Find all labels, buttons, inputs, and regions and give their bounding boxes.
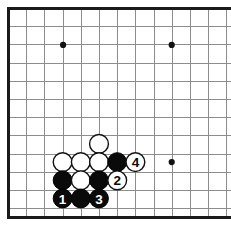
white-stone-d[interactable] (90, 153, 109, 172)
black-stone-disc (108, 153, 127, 172)
stones-group: 4213 (53, 135, 145, 208)
move-3-black[interactable]: 3 (90, 189, 109, 208)
white-stone-disc (53, 153, 72, 172)
stone-move-number: 1 (59, 192, 67, 207)
move-4-white[interactable]: 4 (126, 153, 145, 172)
star-point-top-left (60, 42, 66, 48)
white-stone-disc (71, 171, 90, 190)
white-stone-disc (90, 153, 109, 172)
white-stone-g[interactable] (71, 171, 90, 190)
white-stone-a[interactable] (90, 135, 109, 154)
black-stone-f[interactable] (53, 171, 72, 190)
move-2-white[interactable]: 2 (108, 171, 127, 190)
stone-move-number: 3 (95, 192, 103, 207)
stone-move-number: 4 (132, 155, 140, 170)
white-stone-disc (90, 135, 109, 154)
black-stone-disc (90, 171, 109, 190)
white-stone-disc (71, 153, 90, 172)
white-stone-c[interactable] (71, 153, 90, 172)
move-1-black[interactable]: 1 (53, 189, 72, 208)
black-stone-disc (71, 189, 90, 208)
black-stone-e[interactable] (108, 153, 127, 172)
black-stone-i[interactable] (71, 189, 90, 208)
white-stone-b[interactable] (53, 153, 72, 172)
goban-grid: 4213 (0, 0, 231, 227)
black-stone-disc (53, 171, 72, 190)
star-point-bottom-right (169, 159, 175, 165)
black-stone-h[interactable] (90, 171, 109, 190)
go-board-diagram: 4213 (0, 0, 231, 227)
stone-move-number: 2 (113, 173, 121, 188)
star-point-top-right (169, 42, 175, 48)
